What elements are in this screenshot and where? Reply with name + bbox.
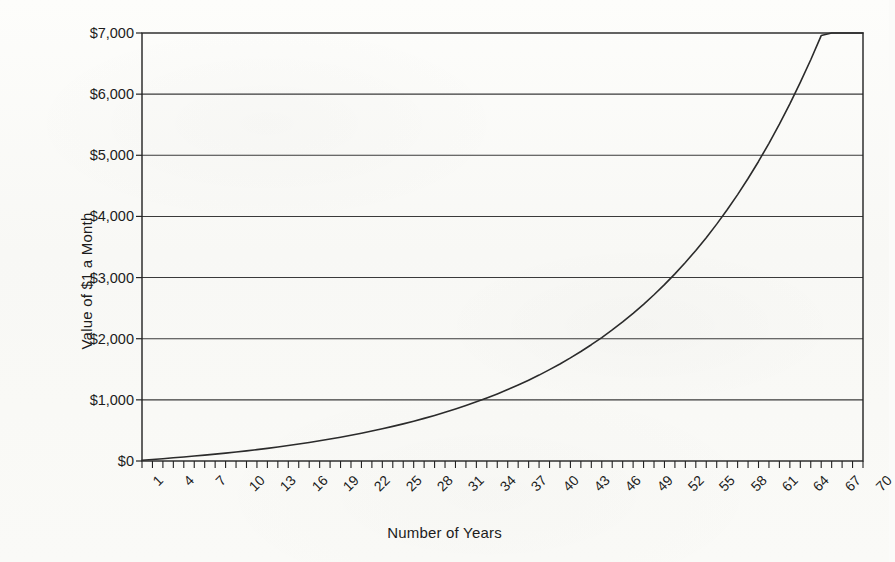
gridlines [142,94,863,400]
x-axis-minor-ticks [142,461,863,468]
plot-frame [142,33,863,461]
data-series-line [142,33,863,460]
y-axis-tick-marks [136,33,142,461]
